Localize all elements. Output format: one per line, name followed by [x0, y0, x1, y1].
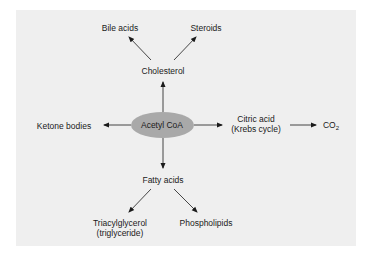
arrow-cholesterol-to-bile-acids [129, 37, 151, 60]
arrow-cholesterol-to-steroids [174, 37, 196, 60]
arrow-fatty-acids-to-phospholipids [174, 189, 197, 212]
steroids-label: Steroids [190, 23, 221, 33]
co2-label: CO2 [323, 120, 339, 133]
acetyl-coa-label: Acetyl CoA [141, 120, 183, 130]
co2-subscript: 2 [336, 125, 339, 131]
co2-base: CO [323, 120, 336, 130]
triacylglycerol-label: Triacylglycerol (triglyceride) [93, 218, 147, 238]
ketone-bodies-label: Ketone bodies [37, 121, 91, 131]
phospholipids-label: Phospholipids [180, 218, 233, 228]
bile-acids-label: Bile acids [102, 23, 138, 33]
triacylglycerol-line1: Triacylglycerol [93, 218, 147, 228]
triacylglycerol-line2: (triglyceride) [93, 228, 147, 238]
citric-acid-line1: Citric acid [231, 114, 281, 124]
arrow-fatty-acids-to-triacylglycerol [129, 189, 151, 212]
fatty-acids-label: Fatty acids [142, 175, 183, 185]
citric-acid-line2: (Krebs cycle) [231, 124, 281, 134]
cholesterol-label: Cholesterol [142, 66, 185, 76]
citric-acid-label: Citric acid (Krebs cycle) [231, 114, 281, 134]
